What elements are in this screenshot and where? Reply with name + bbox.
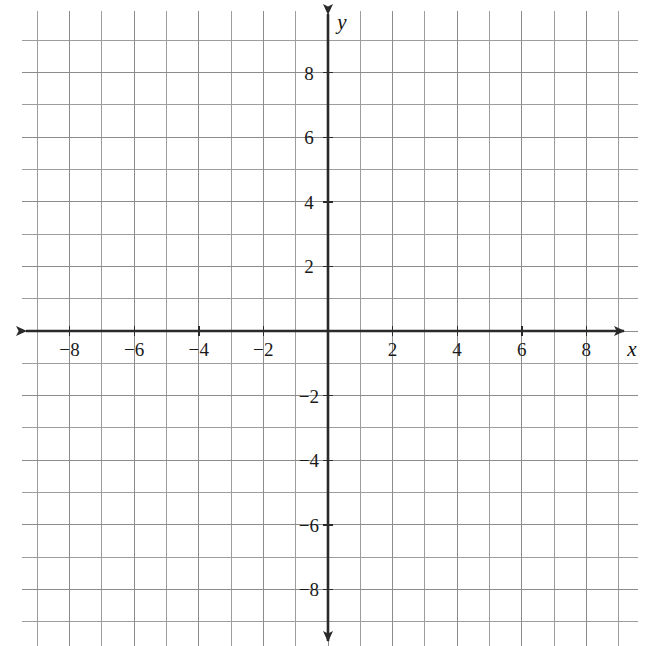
x-tick-label: 4 [452, 340, 462, 359]
coordinate-plane-figure: −8−6−4−22468 8642−2−4−6−8 x y [0, 0, 645, 646]
x-tick-label: 6 [517, 340, 527, 359]
x-tick-label: 2 [388, 340, 398, 359]
y-tick-label: 4 [304, 192, 314, 211]
y-tick-label: −6 [299, 515, 320, 534]
y-tick-label: −2 [299, 386, 320, 405]
y-tick-label: −4 [299, 451, 320, 470]
x-axis-label: x [627, 339, 636, 360]
y-tick-label: 2 [304, 257, 314, 276]
y-tick-label: −8 [299, 580, 320, 599]
minor-gridlines [22, 11, 638, 646]
x-tick-label: −2 [253, 340, 274, 359]
x-tick-label: −8 [59, 340, 80, 359]
coordinate-grid-svg [0, 0, 645, 646]
x-tick-label: −6 [124, 340, 145, 359]
major-gridlines [22, 11, 638, 646]
y-axis-label: y [337, 12, 346, 33]
x-tick-label: −4 [188, 340, 209, 359]
x-tick-label: 8 [582, 340, 592, 359]
y-tick-label: 6 [304, 128, 314, 147]
y-tick-label: 8 [304, 63, 314, 82]
